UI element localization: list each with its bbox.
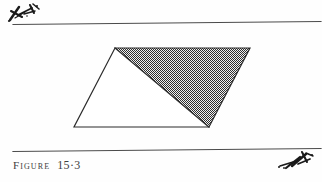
top-horizontal-rule [13,22,321,25]
figure-canvas [0,0,322,182]
figure-page: Figure15·3 [0,0,322,182]
figure-caption: Figure15·3 [13,158,81,173]
figure-caption-label: Figure [13,159,50,171]
bottom-horizontal-rule [13,149,321,152]
figure-caption-number: 15·3 [57,158,81,172]
